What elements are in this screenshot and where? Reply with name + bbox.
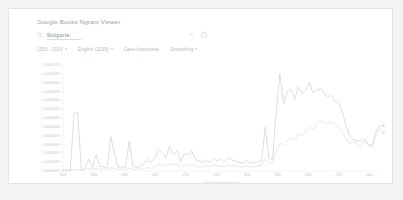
y-tick-label: 0.0000090% (43, 90, 61, 94)
ngram-chart[interactable]: 0.0000000%0.0000010%0.0000020%0.0000030%… (29, 61, 385, 184)
series-label-bulgaria[interactable]: Bulgaria (382, 124, 385, 128)
x-tick-label: 1950 (335, 173, 342, 177)
series-line-bulgaria[interactable] (63, 73, 381, 170)
y-tick-label: 0.0000030% (43, 143, 61, 147)
filter-chip-smoothing[interactable]: Smoothing (170, 47, 197, 52)
filter-chips: 1500 - 2019English (2019)Case-Insensitiv… (37, 45, 208, 53)
close-icon[interactable] (187, 30, 196, 39)
filter-chip-label: 1500 - 2019 (37, 47, 63, 52)
filter-chip-label: Case-Insensitive (124, 47, 160, 52)
search-icon (37, 32, 43, 38)
series-label-romania[interactable]: Romania (382, 131, 385, 135)
y-tick-label: 0.0000100% (43, 81, 61, 85)
x-tick-label: 2000 (366, 173, 373, 177)
filter-chip-corpus[interactable]: English (2019) (78, 47, 113, 52)
viewer-card: Google Books Ngram Viewer ? 150 (8, 8, 393, 184)
y-tick-label: 0.0000000% (43, 169, 61, 173)
y-tick-label: 0.0000060% (43, 116, 61, 120)
series-line-romania[interactable] (63, 121, 381, 171)
filter-chip-year-range[interactable]: 1500 - 2019 (37, 47, 67, 52)
x-tick-label: 1550 (90, 173, 97, 177)
search-underline (47, 39, 81, 40)
help-circle-icon[interactable]: ? (199, 30, 208, 39)
x-tick-label: 1650 (151, 173, 158, 177)
chevron-down-icon (111, 48, 113, 50)
y-tick-label: 0.0000110% (43, 72, 60, 76)
filter-chip-label: English (2019) (78, 47, 109, 52)
chart-axis-caption: (click on line/label for focus) (203, 181, 241, 184)
x-tick-label: 1500 (60, 173, 67, 177)
x-tick-label: 1850 (274, 173, 281, 177)
y-tick-label: 0.0000010% (43, 160, 61, 164)
chevron-down-icon (65, 48, 67, 50)
filter-chip-label: Smoothing (170, 47, 193, 52)
y-tick-label: 0.0000080% (43, 98, 61, 102)
x-tick-label: 1900 (305, 173, 312, 177)
svg-text:?: ? (203, 33, 205, 37)
x-tick-label: 1750 (213, 173, 220, 177)
filter-chip-case-insensitive[interactable]: Case-Insensitive (124, 47, 160, 52)
y-tick-label: 0.0000040% (43, 134, 61, 138)
y-tick-label: 0.0000070% (43, 107, 61, 111)
page-title: Google Books Ngram Viewer (37, 18, 120, 25)
x-tick-label: 1800 (243, 173, 250, 177)
y-tick-label: 0.0000050% (43, 125, 61, 129)
ngram-viewer-page: Google Books Ngram Viewer ? 150 (0, 0, 403, 200)
x-tick-label: 1700 (182, 173, 189, 177)
y-tick-label: 0.0000120% (43, 63, 61, 67)
x-tick-label: 1600 (121, 173, 128, 177)
chevron-down-icon (195, 48, 197, 50)
search-bar[interactable] (37, 30, 185, 41)
y-tick-label: 0.0000020% (43, 151, 61, 155)
